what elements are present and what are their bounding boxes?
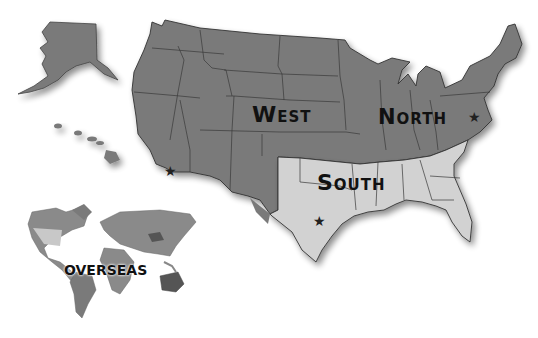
us-regions-map: [0, 0, 538, 338]
south-office-star-icon: ★: [313, 214, 326, 228]
region-label-south: South: [317, 172, 386, 194]
world-map-inset: [28, 204, 196, 318]
north-office-star-icon: ★: [468, 110, 481, 124]
hawaii-shape: [54, 124, 120, 165]
region-label-north: North: [378, 107, 447, 128]
region-label-west: West: [252, 104, 312, 126]
alaska-shape: [18, 22, 118, 94]
west-office-star-icon: ★: [164, 164, 177, 178]
region-label-overseas: OVERSEAS: [64, 263, 147, 277]
